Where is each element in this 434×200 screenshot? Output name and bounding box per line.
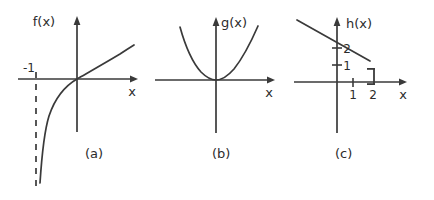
panel-b: g(x) x (b) <box>145 0 290 200</box>
tick-label-y-two: 2 <box>343 42 351 56</box>
y-axis-label: g(x) <box>221 15 247 30</box>
y-axis <box>74 16 81 132</box>
panel-a: f(x) x -1 (a) <box>0 0 145 200</box>
panel-caption-b: (b) <box>212 146 230 161</box>
y-axis <box>213 17 220 133</box>
tick-label-x-two: 2 <box>369 88 377 102</box>
x-axis <box>294 79 407 86</box>
x-axis-label: x <box>265 85 273 100</box>
panel-a-plot: f(x) x -1 <box>0 0 145 200</box>
y-axis-label: h(x) <box>346 16 372 31</box>
panel-c: h(x) x 2 1 1 2 (c) <box>290 0 434 200</box>
panel-c-plot: h(x) x 2 1 1 2 <box>290 0 434 200</box>
panel-b-plot: g(x) x <box>145 0 290 200</box>
tick-label-minus-one: -1 <box>23 61 35 75</box>
y-axis <box>334 17 341 133</box>
y-axis-label: f(x) <box>33 14 55 29</box>
x-axis-label: x <box>128 84 136 99</box>
tick-label-y-one: 1 <box>343 59 351 73</box>
curve-g <box>180 26 258 80</box>
panel-caption-c: (c) <box>335 146 352 161</box>
x-axis-label: x <box>399 87 407 102</box>
tick-label-x-one: 1 <box>349 88 357 102</box>
panel-caption-a: (a) <box>85 146 103 161</box>
curve-f <box>40 45 134 183</box>
figure-three-graphs: f(x) x -1 (a) g(x) x (b) <box>0 0 434 200</box>
